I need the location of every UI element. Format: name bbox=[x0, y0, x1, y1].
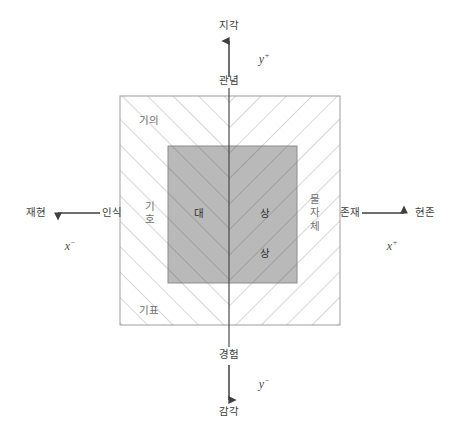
field-label-left-vertical-char-0: 기 bbox=[145, 200, 155, 213]
field-label-bottom-left: 기표 bbox=[139, 306, 159, 317]
axis-endpoint-right-inner: 존재 bbox=[340, 208, 360, 219]
axis-label-x-positive: x+ bbox=[387, 239, 397, 252]
axis-endpoint-top-inner: 관념 bbox=[219, 76, 239, 87]
axis-endpoint-left-inner: 인식 bbox=[102, 208, 122, 219]
field-label-right-vertical: 물 자 체 bbox=[310, 193, 320, 233]
field-label-left-vertical: 기 호 bbox=[145, 200, 155, 227]
field-label-right-vertical-char-2: 체 bbox=[310, 220, 320, 233]
axis-label-y-positive-sign: + bbox=[265, 51, 270, 60]
axis-label-x-negative: x− bbox=[65, 239, 75, 252]
axis-label-y-negative: y− bbox=[259, 377, 269, 390]
axis-label-y-negative-sign: − bbox=[265, 376, 270, 385]
axis-endpoint-right-outer: 현존 bbox=[415, 208, 435, 219]
axis-label-x-positive-sign: + bbox=[393, 238, 398, 247]
field-label-left-vertical-char-1: 호 bbox=[145, 213, 155, 226]
axis-endpoint-bottom-inner: 경험 bbox=[219, 350, 239, 361]
axis-label-x-negative-symbol: x bbox=[65, 239, 70, 253]
axis-endpoint-top-outer: 지각 bbox=[219, 21, 239, 32]
diagram-root: 지각 관념 y+ 경험 감각 y− 재현 인식 x− 존재 현존 x+ 기의 기… bbox=[0, 0, 462, 431]
object-image-box bbox=[168, 146, 297, 283]
axis-label-x-negative-sign: − bbox=[71, 238, 76, 247]
axis-label-y-positive: y+ bbox=[259, 52, 269, 65]
field-label-right-vertical-char-1: 자 bbox=[310, 206, 320, 219]
field-label-top-left: 기의 bbox=[139, 116, 159, 127]
axis-label-y-negative-symbol: y bbox=[259, 377, 264, 391]
diagram-canvas bbox=[0, 0, 462, 431]
axis-endpoint-left-outer: 재현 bbox=[26, 208, 46, 219]
inner-label-left: 대 bbox=[194, 209, 204, 220]
axis-label-x-positive-symbol: x bbox=[387, 239, 392, 253]
inner-label-right-top: 상 bbox=[260, 209, 270, 220]
field-label-right-vertical-char-0: 물 bbox=[310, 193, 320, 206]
inner-label-right-bottom: 상 bbox=[260, 249, 270, 260]
axis-label-y-positive-symbol: y bbox=[259, 52, 264, 66]
axis-endpoint-bottom-outer: 감각 bbox=[219, 407, 239, 418]
